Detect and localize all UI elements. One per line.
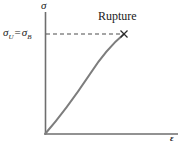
sigma-b-symbol: σB	[22, 26, 32, 38]
equals-sign: =	[14, 26, 22, 38]
sigma-stress-axis-label: σ	[41, 0, 46, 11]
rupture-marker-icon	[121, 31, 128, 38]
epsilon-strain-axis-label: ε	[170, 134, 174, 143]
stress-strain-curve	[45, 34, 124, 134]
ultimate-stress-value-label: σU=σB	[3, 27, 31, 41]
stress-strain-diagram: σ ε Rupture σU=σB	[0, 0, 181, 148]
sigma-u-symbol: σU	[3, 26, 14, 38]
subscript-u: U	[8, 33, 13, 41]
plot-canvas	[0, 0, 181, 148]
rupture-annotation-label: Rupture	[98, 10, 137, 22]
subscript-b: B	[27, 33, 31, 41]
